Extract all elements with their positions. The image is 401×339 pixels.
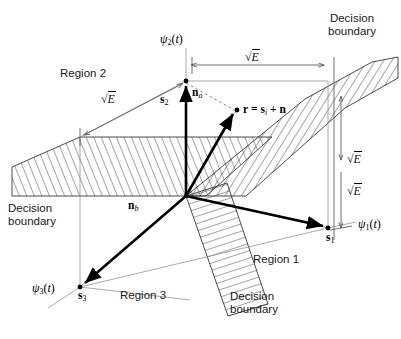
decision-boundary-label-left: Decision boundary: [8, 202, 56, 228]
energy-label-bottom-right: √E: [347, 185, 362, 198]
energy-label-top: √E: [245, 51, 260, 64]
region-label-region1: Region 1: [253, 253, 299, 266]
diagram-canvas: [0, 0, 401, 339]
axis-label-psi3: ψ3(t): [32, 282, 55, 297]
point-label-s3: s3: [78, 289, 86, 304]
point-label-s1: s1: [326, 231, 334, 246]
dot-origin: [184, 194, 188, 198]
decision-boundary-line2: boundary: [328, 25, 376, 37]
axis-label-psi1: ψ1(t): [358, 218, 381, 233]
decision-boundary-label-bottom: Decision boundary: [230, 290, 278, 316]
region-label-region3: Region 3: [120, 289, 166, 302]
decision-boundary-line1: Decision: [330, 12, 374, 24]
vector-label-nb: nb: [128, 199, 138, 214]
received-vector-label: r = si + n: [243, 103, 286, 118]
vector-label-na: na: [192, 86, 202, 101]
dot-s1: [326, 226, 331, 231]
energy-label-region2: √E: [101, 93, 116, 106]
decision-boundary-plane-upper-right: [186, 57, 398, 196]
dot-r: [235, 108, 240, 113]
energy-label-right: √E: [347, 153, 362, 166]
region-label-region2: Region 2: [60, 67, 106, 80]
point-label-s2: s2: [160, 93, 168, 108]
axis-label-psi2: ψ2(t): [160, 33, 183, 48]
decision-boundary-label-top-right: Decision boundary: [328, 12, 376, 38]
dot-s2: [184, 79, 189, 84]
decision-boundary-line1: Decision: [8, 202, 52, 214]
decision-boundary-line2: boundary: [8, 215, 56, 227]
signal-space-diagram: ψ2(t) ψ1(t) ψ3(t) s2 s1 s3 na nb r = si …: [0, 0, 401, 339]
decision-boundary-line2: boundary: [230, 303, 278, 315]
decision-boundary-line1: Decision: [230, 290, 274, 302]
